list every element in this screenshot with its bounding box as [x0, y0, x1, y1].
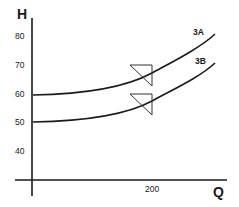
y-tick-50: 50: [15, 117, 25, 127]
operating-point-triangle-3b: [130, 94, 152, 115]
curve-3a: [33, 34, 215, 95]
pump-curve-chart: H Q 80 70 60 50 40 200 3A 3B: [0, 0, 239, 207]
y-tick-40: 40: [15, 146, 25, 156]
curve-3b-label: 3B: [195, 56, 206, 66]
x-tick-200: 200: [145, 184, 159, 194]
curve-3b: [33, 63, 215, 122]
curve-3a-label: 3A: [193, 27, 204, 37]
y-tick-80: 80: [15, 31, 25, 41]
y-axis-title: H: [17, 6, 27, 22]
y-tick-60: 60: [15, 89, 25, 99]
x-axis-title: Q: [213, 184, 224, 200]
y-tick-70: 70: [15, 60, 25, 70]
